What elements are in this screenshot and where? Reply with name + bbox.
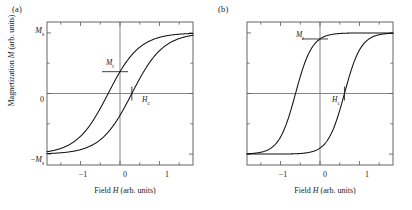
plot-canvas [0,0,412,210]
hysteresis-figure: (a) Magnetization M (arb. units) Ms 0 −M… [0,0,412,210]
